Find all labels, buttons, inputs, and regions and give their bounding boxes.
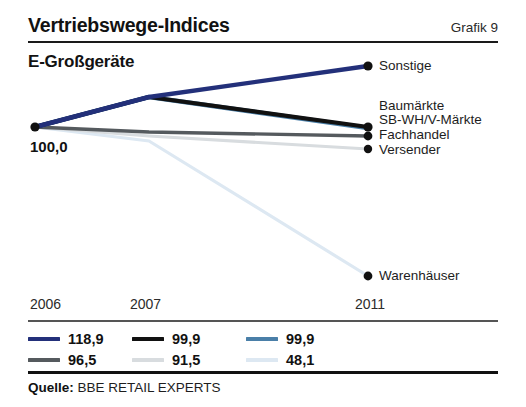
series-label-baumaerkte: Baumärkte xyxy=(379,99,444,113)
data-point-sb-wh xyxy=(363,122,372,131)
legend-item-3: 96,5 xyxy=(28,350,96,369)
legend-value-0: 118,9 xyxy=(68,331,104,347)
x-axis-tick-2006: 2006 xyxy=(30,296,61,312)
series-label-fachhandel: Fachhandel xyxy=(379,128,450,142)
legend-value-5: 48,1 xyxy=(286,352,314,368)
legend-swatch-icon-0 xyxy=(28,337,60,341)
legend-value-1: 99,9 xyxy=(172,331,200,347)
legend-value-2: 99,9 xyxy=(286,331,314,347)
base-value-label: 100,0 xyxy=(30,138,68,155)
legend-item-0: 118,9 xyxy=(28,329,104,348)
series-line-warenhaeuser xyxy=(35,127,368,276)
series-line-sonstige xyxy=(35,66,368,127)
footer-divider xyxy=(28,371,498,374)
legend-swatch-icon-5 xyxy=(246,358,278,362)
series-label-sb-wh: SB-WH/V-Märkte xyxy=(379,113,482,127)
line-chart-plot: 100,0 Sonstige Baumärkte SB-WH/V-Märkte … xyxy=(0,0,526,300)
series-label-versender: Versender xyxy=(379,143,441,157)
source-label: Quelle: xyxy=(28,380,74,395)
data-point-sonstige xyxy=(363,61,372,70)
legend-value-3: 96,5 xyxy=(68,352,96,368)
legend-swatch-icon-2 xyxy=(246,337,278,341)
series-label-sonstige: Sonstige xyxy=(379,59,432,73)
source-text: BBE RETAIL EXPERTS xyxy=(78,380,221,395)
source-line: Quelle: BBE RETAIL EXPERTS xyxy=(28,380,221,395)
legend-item-2: 99,9 xyxy=(246,329,314,348)
legend-swatch-icon-3 xyxy=(28,358,60,362)
data-point-versender xyxy=(364,145,372,153)
x-axis-tick-2011: 2011 xyxy=(355,296,385,312)
data-point-origin xyxy=(30,122,39,131)
data-point-warenhaeuser xyxy=(364,272,373,281)
legend-item-1: 99,9 xyxy=(132,329,200,348)
legend-item-5: 48,1 xyxy=(246,350,314,369)
legend-swatch-icon-4 xyxy=(132,358,164,362)
legend-swatch-icon-1 xyxy=(132,337,164,341)
x-axis-line xyxy=(28,320,498,322)
series-label-warenhaeuser: Warenhäuser xyxy=(379,269,460,283)
data-point-fachhandel xyxy=(364,132,373,141)
chart-page: Vertriebswege-Indices Grafik 9 E-Großger… xyxy=(0,0,526,407)
legend-item-4: 91,5 xyxy=(132,350,200,369)
legend-value-4: 91,5 xyxy=(172,352,200,368)
x-axis-labels: 2006 2007 2011 xyxy=(0,296,526,318)
x-axis-tick-2007: 2007 xyxy=(130,296,161,312)
chart-legend: 118,9 99,9 99,9 96,5 91,5 48,1 xyxy=(28,329,498,371)
chart-svg xyxy=(0,0,526,300)
